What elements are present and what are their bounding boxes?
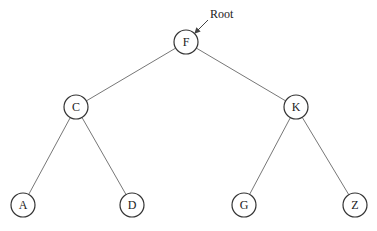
tree-node-K: K bbox=[284, 95, 308, 119]
edges bbox=[29, 48, 349, 195]
root-label: Root bbox=[210, 7, 234, 21]
tree-node-F: F bbox=[174, 30, 198, 54]
node-label: F bbox=[183, 35, 190, 49]
tree-node-Z: Z bbox=[343, 193, 367, 217]
tree-node-D: D bbox=[120, 193, 144, 217]
tree-node-A: A bbox=[11, 193, 35, 217]
edge-C-D bbox=[82, 117, 126, 194]
edge-K-G bbox=[250, 118, 291, 195]
node-label: A bbox=[19, 198, 28, 212]
edge-F-C bbox=[86, 48, 175, 101]
tree-svg: FCKADGZ Root bbox=[0, 0, 377, 231]
tree-diagram: FCKADGZ Root bbox=[0, 0, 377, 231]
root-arrow-icon bbox=[195, 20, 208, 33]
edge-C-A bbox=[29, 118, 71, 195]
node-label: Z bbox=[351, 198, 358, 212]
node-label: G bbox=[240, 198, 249, 212]
node-label: C bbox=[72, 100, 80, 114]
node-label: K bbox=[292, 100, 301, 114]
tree-node-C: C bbox=[64, 95, 88, 119]
node-label: D bbox=[128, 198, 137, 212]
edge-F-K bbox=[196, 48, 285, 101]
tree-node-G: G bbox=[232, 193, 256, 217]
edge-K-Z bbox=[302, 117, 349, 194]
nodes: FCKADGZ bbox=[11, 30, 367, 217]
root-annotation: Root bbox=[195, 7, 234, 33]
